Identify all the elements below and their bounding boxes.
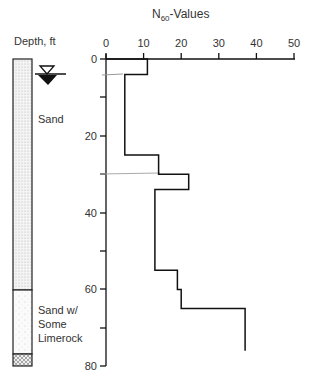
- sand-layer: [13, 59, 32, 290]
- svg-text:0: 0: [91, 53, 97, 65]
- soil-column: [13, 59, 32, 366]
- layer-label-sand-limerock-3: Limerock: [38, 332, 83, 344]
- water-level-line: [102, 74, 123, 75]
- svg-text:0: 0: [103, 37, 109, 49]
- svg-text:40: 40: [250, 37, 262, 49]
- svg-text:50: 50: [288, 37, 300, 49]
- svg-text:20: 20: [85, 130, 97, 142]
- layer-label-sand-limerock-2: Some: [38, 318, 67, 330]
- y-tick-labels: 0 20 40 60 80: [85, 53, 97, 372]
- svg-text:40: 40: [85, 207, 97, 219]
- svg-text:30: 30: [213, 37, 225, 49]
- soil-profile-diagram: N60-Values Depth, ft Sand Sand w/ Some L…: [0, 0, 311, 381]
- reference-line: [100, 173, 160, 174]
- y-axis: [100, 54, 106, 366]
- chart-title: N60-Values: [152, 7, 209, 23]
- svg-text:20: 20: [175, 37, 187, 49]
- limerock-layer: [13, 354, 32, 366]
- n60-profile-line: [106, 59, 245, 351]
- svg-text:60: 60: [85, 283, 97, 295]
- depth-axis-label: Depth, ft: [14, 35, 56, 47]
- x-axis: [106, 53, 295, 59]
- layer-label-sand: Sand: [38, 113, 64, 125]
- sand-limerock-layer: [13, 290, 32, 354]
- layer-label-sand-limerock-1: Sand w/: [38, 304, 79, 316]
- x-tick-labels: 0 10 20 30 40 50: [103, 37, 300, 49]
- water-table-icon: [35, 66, 66, 85]
- svg-text:80: 80: [85, 360, 97, 372]
- svg-text:10: 10: [137, 37, 149, 49]
